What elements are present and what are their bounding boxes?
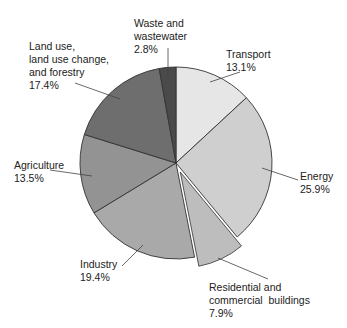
- slice-label: Energy 25.9%: [300, 170, 333, 196]
- slice-label: Land use, land use change, and forestry …: [29, 40, 109, 92]
- slice-label: Waste and wastewater 2.8%: [134, 17, 187, 56]
- slice-label: Industry 19.4%: [80, 258, 117, 284]
- slice-label: Agriculture 13.5%: [14, 159, 64, 185]
- leader-line: [218, 258, 268, 279]
- pie-slices: [80, 67, 272, 266]
- slice-label: Residential and commercial buildings 7.9…: [209, 281, 310, 320]
- slice-label: Transport 13.1%: [226, 48, 271, 74]
